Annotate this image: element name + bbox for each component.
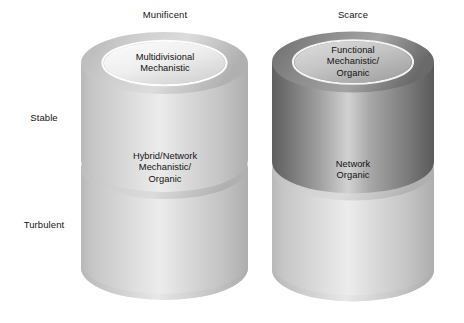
cell-line: Organic xyxy=(298,170,408,181)
cell-line: Network xyxy=(298,159,408,170)
cell-line: Mechanistic/ xyxy=(296,56,410,67)
row-header-turbulent-label: Turbulent xyxy=(24,219,65,230)
cell-line: Functional xyxy=(296,45,410,56)
row-header-stable: Stable xyxy=(16,112,72,123)
cell-line: Organic xyxy=(104,174,226,185)
cell-turbulent-munificent-text: Hybrid/Network Mechanistic/ Organic xyxy=(104,151,226,185)
cell-line: Multidivisional xyxy=(105,52,225,63)
cell-stable-munificent-text: Multidivisional Mechanistic xyxy=(105,52,225,75)
row-header-stable-label: Stable xyxy=(30,112,58,123)
diagram-canvas: Munificent Scarce Stable Turbulent Multi… xyxy=(0,0,464,323)
cell-line: Mechanistic/ xyxy=(104,162,226,173)
cell-line: Mechanistic xyxy=(105,63,225,74)
cell-stable-scarce-text: Functional Mechanistic/ Organic xyxy=(296,45,410,79)
cell-turbulent-scarce-text: Network Organic xyxy=(298,159,408,182)
column-header-munificent-label: Munificent xyxy=(143,9,187,20)
column-header-munificent: Munificent xyxy=(122,9,208,20)
cell-line: Hybrid/Network xyxy=(104,151,226,162)
column-header-scarce: Scarce xyxy=(320,9,386,20)
column-header-scarce-label: Scarce xyxy=(338,9,368,20)
row-header-turbulent: Turbulent xyxy=(10,219,78,230)
cell-line: Organic xyxy=(296,68,410,79)
